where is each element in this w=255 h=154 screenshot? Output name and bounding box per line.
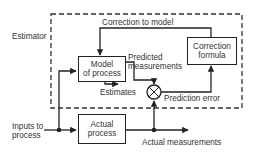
predicted-measurements-label: Predicted measurements	[128, 53, 182, 71]
actual-measurements-label: Actual measurements	[142, 138, 221, 147]
inputs-label: Inputs to process	[12, 122, 43, 140]
model-box-line1: Model	[83, 60, 121, 70]
estimator-label: Estimator	[12, 32, 47, 41]
actual-box-line1: Actual	[88, 120, 117, 130]
actual-box-line2: process	[88, 129, 117, 139]
inputs-line2: process	[12, 131, 43, 140]
predicted-line2: measurements	[128, 62, 182, 71]
inputs-line1: Inputs to	[12, 122, 43, 131]
correction-to-model-label: Correction to model	[102, 18, 173, 27]
model-of-process-box: Model of process	[78, 56, 126, 82]
inputs-to-model-line	[59, 71, 76, 130]
actual-process-box: Actual process	[78, 114, 126, 144]
correction-formula-box: Correction formula	[187, 37, 237, 65]
model-box-line2: of process	[83, 69, 121, 79]
correction-box-line2: formula	[193, 51, 231, 61]
correction-box-line1: Correction	[193, 42, 231, 52]
predicted-line1: Predicted	[128, 53, 182, 62]
prediction-error-label: Prediction error	[164, 94, 220, 103]
estimates-label: Estimates	[100, 88, 136, 97]
